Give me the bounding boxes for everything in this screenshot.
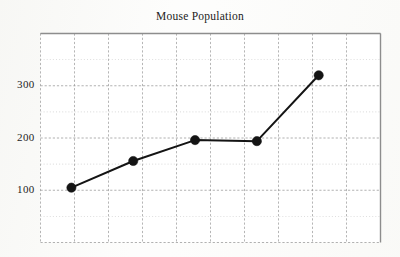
y-axis-tick-label: 200 (17, 131, 34, 143)
chart-figure: Mouse Population 100200300 (0, 0, 400, 257)
y-axis-tick-label: 100 (17, 183, 34, 195)
y-axis-tick-label: 300 (17, 78, 34, 90)
y-axis-tick-labels: 100200300 (0, 0, 400, 257)
plot-area: 100200300 (0, 0, 400, 257)
